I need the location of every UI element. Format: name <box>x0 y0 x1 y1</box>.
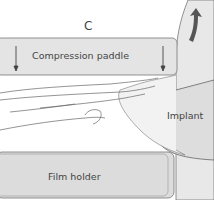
implant-label: Implant <box>167 110 203 121</box>
mammography-implant-displacement-diagram: C Compression paddle Implant Film holder <box>0 0 214 200</box>
compression-paddle-label: Compression paddle <box>32 50 129 61</box>
panel-label: C <box>84 19 92 33</box>
diagram-graphic <box>0 0 214 200</box>
film-holder-label: Film holder <box>48 171 101 182</box>
